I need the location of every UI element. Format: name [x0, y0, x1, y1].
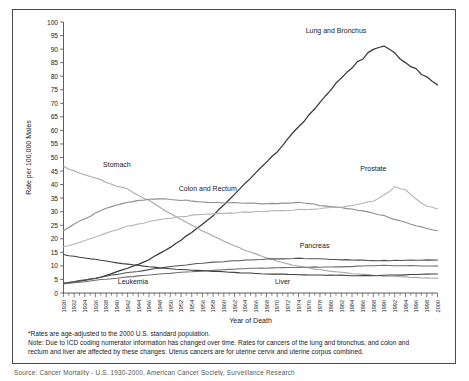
svg-text:65: 65 [51, 113, 59, 120]
svg-text:1962: 1962 [232, 300, 238, 312]
footnotes: *Rates are age-adjusted to the 2000 U.S.… [28, 329, 438, 357]
svg-text:1996: 1996 [413, 300, 419, 312]
x-axis-title: Year of Death [229, 317, 272, 324]
svg-text:1946: 1946 [146, 300, 152, 312]
svg-text:15: 15 [51, 249, 59, 256]
svg-text:45: 45 [51, 168, 59, 175]
svg-text:1930: 1930 [61, 300, 67, 312]
y-axis-title: Rate per 100,000 Males [25, 120, 33, 195]
svg-text:85: 85 [51, 59, 59, 66]
annotation-prostate: Prostate [360, 165, 386, 172]
svg-text:1990: 1990 [381, 300, 387, 312]
svg-text:5: 5 [54, 276, 58, 283]
svg-text:1938: 1938 [103, 300, 109, 312]
svg-text:2000: 2000 [435, 300, 441, 312]
svg-text:1944: 1944 [136, 300, 142, 312]
source-line: Source: Cancer Mortality - U.S. 1930-200… [14, 369, 464, 376]
svg-text:1950: 1950 [168, 300, 174, 312]
svg-text:1940: 1940 [114, 300, 120, 312]
svg-text:95: 95 [51, 32, 59, 39]
svg-text:1956: 1956 [200, 300, 206, 312]
svg-text:10: 10 [51, 262, 59, 269]
series-line-prostate [64, 187, 438, 247]
figure-root: 0510152025303540455055606570758085909510… [0, 0, 469, 381]
svg-text:1970: 1970 [274, 300, 280, 312]
svg-text:50: 50 [51, 154, 59, 161]
svg-text:1986: 1986 [360, 300, 366, 312]
svg-text:1948: 1948 [157, 300, 163, 312]
svg-text:1958: 1958 [210, 300, 216, 312]
line-chart: 0510152025303540455055606570758085909510… [0, 0, 469, 381]
svg-text:25: 25 [51, 222, 59, 229]
series-line-stomach [64, 166, 438, 278]
svg-text:1974: 1974 [296, 300, 302, 312]
svg-text:1942: 1942 [125, 300, 131, 312]
svg-text:1972: 1972 [285, 300, 291, 312]
svg-text:35: 35 [51, 195, 59, 202]
annotation-liver: Liver [275, 278, 291, 285]
svg-text:1978: 1978 [317, 300, 323, 312]
svg-text:1984: 1984 [349, 300, 355, 312]
svg-text:0: 0 [54, 290, 58, 297]
chart-canvas: 0510152025303540455055606570758085909510… [0, 0, 469, 381]
svg-text:1992: 1992 [392, 300, 398, 312]
footnote-note-1: Note: Due to ICD coding numerator inform… [28, 338, 438, 347]
svg-text:1966: 1966 [253, 300, 259, 312]
svg-text:1960: 1960 [221, 300, 227, 312]
svg-text:60: 60 [51, 127, 59, 134]
annotation-leukemia: Leukemia [118, 278, 148, 285]
svg-text:100: 100 [47, 19, 58, 26]
svg-text:70: 70 [51, 100, 59, 107]
svg-text:1964: 1964 [242, 300, 248, 312]
svg-text:1952: 1952 [178, 300, 184, 312]
svg-text:1954: 1954 [189, 300, 195, 312]
svg-text:1968: 1968 [264, 300, 270, 312]
series-line-colon-and-rectum [64, 199, 438, 231]
svg-text:1982: 1982 [339, 300, 345, 312]
svg-text:1976: 1976 [306, 300, 312, 312]
annotation-stomach: Stomach [103, 161, 131, 168]
svg-text:75: 75 [51, 86, 59, 93]
annotation-pancreas: Pancreas [300, 242, 330, 249]
svg-text:1934: 1934 [82, 300, 88, 312]
series-annotations: Lung and BronchusStomachColon and Rectum… [103, 27, 386, 285]
svg-text:80: 80 [51, 73, 59, 80]
svg-text:40: 40 [51, 181, 59, 188]
svg-text:1932: 1932 [71, 300, 77, 312]
svg-text:1936: 1936 [93, 300, 99, 312]
annotation-colon-and-rectum: Colon and Rectum [179, 185, 237, 192]
svg-text:1980: 1980 [328, 300, 334, 312]
annotation-lung-and-bronchus: Lung and Bronchus [306, 27, 367, 35]
svg-text:1998: 1998 [424, 300, 430, 312]
svg-text:1994: 1994 [403, 300, 409, 312]
svg-text:90: 90 [51, 46, 59, 53]
footnote-note-2: rectum and liver are affected by these c… [28, 347, 438, 356]
svg-text:30: 30 [51, 208, 59, 215]
svg-text:55: 55 [51, 140, 59, 147]
svg-text:1988: 1988 [371, 300, 377, 312]
footnote-rates: *Rates are age-adjusted to the 2000 U.S.… [28, 329, 438, 338]
svg-text:20: 20 [51, 235, 59, 242]
